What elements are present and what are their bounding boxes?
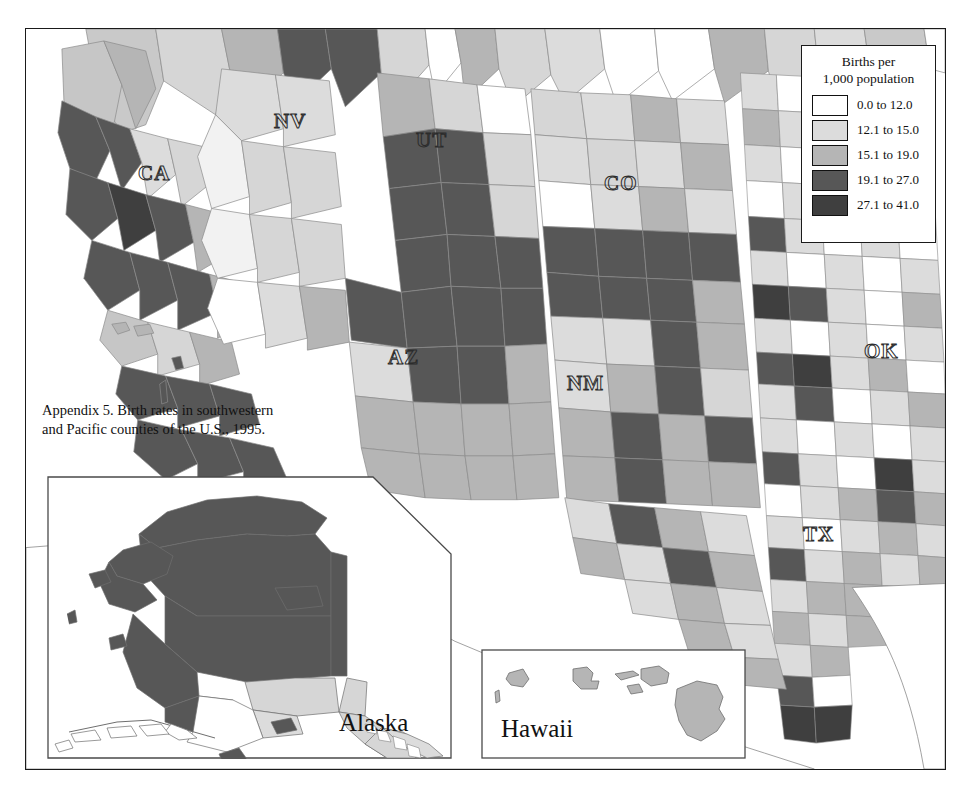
legend-title-line1: Births per <box>806 54 931 71</box>
legend-label-4: 27.1 to 41.0 <box>857 197 919 213</box>
legend-swatch-1 <box>812 120 848 141</box>
alaska-inset: Alaska <box>47 476 452 759</box>
region-colorado <box>531 89 745 324</box>
legend-entry-0: 0.0 to 12.0 <box>812 95 935 116</box>
figure-page: CA NV UT CO AZ NM OK TX Births per 1,000… <box>0 0 979 797</box>
legend-label-1: 12.1 to 15.0 <box>857 122 919 138</box>
legend-swatch-4 <box>812 195 848 216</box>
legend-title: Births per 1,000 population <box>806 54 931 88</box>
figure-caption: Appendix 5. Birth rates in southwestern … <box>42 401 292 440</box>
map-frame: CA NV UT CO AZ NM OK TX Births per 1,000… <box>25 28 946 770</box>
legend-swatch-2 <box>812 145 848 166</box>
region-texas <box>758 384 945 769</box>
legend-swatch-3 <box>812 170 848 191</box>
alaska-inset-label: Alaska <box>339 709 408 737</box>
legend-label-3: 19.1 to 27.0 <box>857 172 919 188</box>
legend-entry-4: 27.1 to 41.0 <box>812 195 935 216</box>
region-nevada <box>198 69 350 350</box>
hawaii-inset-label: Hawaii <box>501 715 573 743</box>
legend-entry-2: 15.1 to 19.0 <box>812 145 935 166</box>
legend-label-0: 0.0 to 12.0 <box>857 97 913 113</box>
legend-label-2: 15.1 to 19.0 <box>857 147 919 163</box>
region-new-mexico <box>551 316 761 507</box>
legend-entry-1: 12.1 to 15.0 <box>812 120 935 141</box>
legend-entry-3: 19.1 to 27.0 <box>812 170 935 191</box>
region-arizona <box>345 278 559 499</box>
hawaii-inset: Hawaii <box>481 649 746 759</box>
map-legend: Births per 1,000 population 0.0 to 12.0 … <box>801 45 936 243</box>
legend-swatch-0 <box>812 95 848 116</box>
legend-title-line2: 1,000 population <box>806 71 931 88</box>
region-utah <box>377 73 543 292</box>
